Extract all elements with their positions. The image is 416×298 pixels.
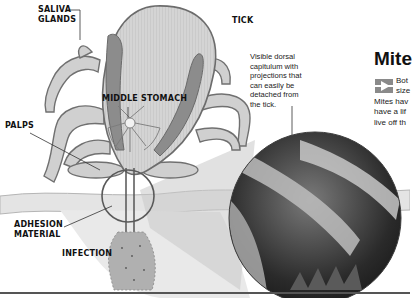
label-adhesion-line1: ADHESION (14, 220, 63, 230)
caption-line: projections that (250, 71, 330, 81)
caption-line: Visible dorsal (250, 52, 330, 62)
bottom-divider (0, 292, 410, 294)
label-tick-title: TICK (232, 16, 253, 26)
photo-caption: Visible dorsal capitulum with projection… (250, 52, 330, 110)
label-saliva-line2: GLANDS (38, 15, 76, 25)
caption-line: detached from (250, 90, 330, 100)
caption-line: capitulum with (250, 62, 330, 72)
sidebar-line: size (374, 86, 416, 96)
infection-area (109, 232, 156, 290)
sidebar-line: Mites hav (374, 97, 416, 107)
caption-line: the tick. (250, 100, 330, 110)
label-adhesion-material: ADHESION MATERIAL (14, 220, 63, 240)
label-palps: PALPS (5, 121, 34, 131)
sidebar-title: Mite (374, 48, 412, 70)
label-adhesion-line2: MATERIAL (14, 230, 63, 240)
caption-line: can easily be (250, 81, 330, 91)
label-middle-stomach: MIDDLE STOMACH (102, 94, 187, 104)
sidebar-body: Bot size Mites hav have a lif live off t… (374, 76, 416, 128)
label-saliva-line1: SALIVA (38, 5, 76, 15)
label-infection: INFECTION (62, 249, 112, 259)
sidebar-line: Bot (374, 76, 416, 86)
sidebar-line: have a lif (374, 107, 416, 117)
sidebar-line: live off th (374, 118, 416, 128)
label-saliva-glands: SALIVA GLANDS (38, 5, 76, 25)
